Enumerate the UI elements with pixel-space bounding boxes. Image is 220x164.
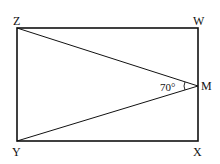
segment-zm [17, 28, 198, 86]
label-y: Y [12, 145, 21, 159]
segment-ym [17, 86, 198, 141]
label-m: M [201, 79, 212, 93]
label-w: W [193, 14, 205, 28]
label-z: Z [13, 14, 20, 28]
geometry-diagram: Z W M Y X 70° [0, 0, 220, 164]
angle-arc-m [184, 82, 185, 90]
label-x: X [193, 145, 202, 159]
angle-label: 70° [160, 81, 175, 93]
